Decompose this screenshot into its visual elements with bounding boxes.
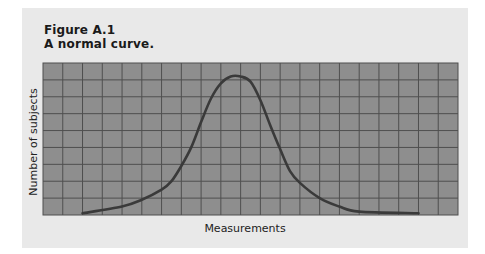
grid-background: [43, 63, 458, 215]
x-axis-label: Measurements: [204, 222, 285, 235]
chart-plot-area: [0, 0, 485, 254]
y-axis-label: Number of subjects: [27, 88, 40, 195]
